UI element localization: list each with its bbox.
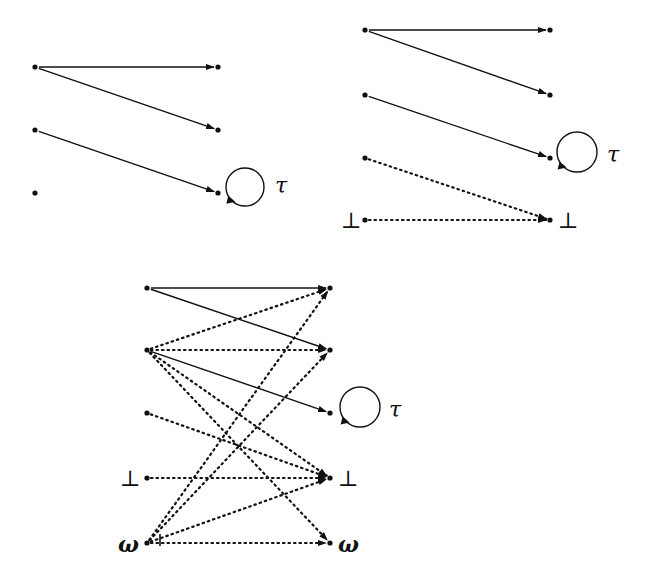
target-node (327, 285, 332, 290)
target-node (327, 475, 332, 480)
solid-arrow (369, 31, 546, 93)
target-node (327, 347, 332, 352)
source-node (362, 92, 367, 97)
tau-label: τ (275, 173, 288, 198)
solid-arrow (369, 96, 546, 156)
dotted-arrow (149, 291, 327, 540)
target-node (327, 410, 332, 415)
diagram-top-left: τ (32, 64, 288, 206)
target-node (215, 190, 220, 195)
source-node (144, 540, 149, 545)
source-node (32, 64, 37, 69)
bottom-label: ⊥ (341, 208, 362, 233)
bottom-label: ⊥ (338, 466, 359, 491)
omega-label: ω (338, 531, 359, 557)
diagram-bottom: τ⊥⊥ωω (118, 285, 402, 557)
target-node (547, 27, 552, 32)
source-node (144, 347, 149, 352)
target-node (547, 92, 552, 97)
source-node (362, 155, 367, 160)
target-node (547, 155, 552, 160)
source-node (362, 217, 367, 222)
diagram-top-right: τ⊥⊥ (341, 27, 620, 233)
target-node (547, 217, 552, 222)
tau-label: τ (607, 142, 620, 167)
omega-label: ω (118, 531, 139, 557)
source-node (144, 285, 149, 290)
tau-label: τ (389, 397, 402, 422)
solid-arrow (39, 131, 214, 191)
target-node (215, 64, 220, 69)
bottom-label: ⊥ (558, 208, 579, 233)
source-node (32, 190, 37, 195)
source-node (144, 475, 149, 480)
source-node (362, 27, 367, 32)
source-node (144, 410, 149, 415)
dotted-arrow (369, 159, 546, 218)
diagram-layer: ττ⊥⊥τ⊥⊥ωω (32, 27, 620, 557)
bottom-label: ⊥ (120, 466, 141, 491)
solid-arrow (39, 68, 214, 128)
target-node (327, 540, 332, 545)
source-node (32, 127, 37, 132)
game-transition-diagrams: ττ⊥⊥τ⊥⊥ωω (0, 0, 648, 579)
target-node (215, 127, 220, 132)
dotted-arrow (151, 414, 326, 476)
